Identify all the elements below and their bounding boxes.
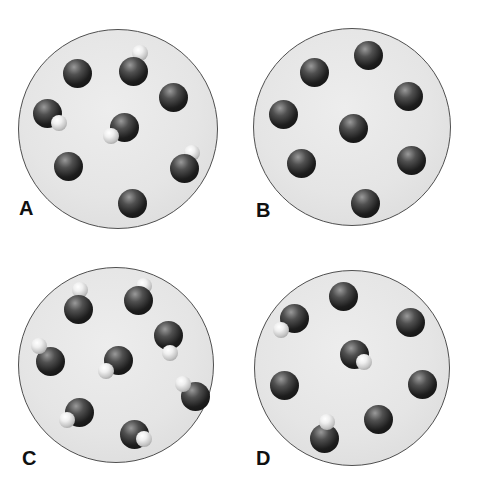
dark-atom-sphere [300,58,329,87]
panel-b: B [237,0,475,247]
dark-atom-sphere [170,154,199,183]
white-atom-sphere [31,338,47,354]
dark-atom-sphere [287,149,316,178]
panel-label-d: D [256,448,270,468]
panel-d: D [237,247,475,494]
white-atom-sphere [59,412,75,428]
panel-a: A [0,0,238,247]
white-atom-sphere [51,115,67,131]
dark-atom-sphere [54,152,83,181]
panel-c: C [0,247,238,494]
white-atom-sphere [136,431,152,447]
dark-atom-sphere [354,41,383,70]
dark-atom-sphere [269,100,298,129]
dark-atom-sphere [63,59,92,88]
dark-atom-sphere [124,286,153,315]
dark-atom-sphere [396,308,425,337]
white-atom-sphere [319,414,335,430]
panel-label-c: C [22,448,36,468]
dark-atom-sphere [329,282,358,311]
panel-label-a: A [19,198,33,218]
particulate-diagram-figure: A B C D [0,0,477,494]
dark-atom-sphere [64,295,93,324]
white-atom-sphere [162,345,178,361]
white-atom-sphere [103,128,119,144]
dark-atom-sphere [159,83,188,112]
dark-atom-sphere [351,189,380,218]
dark-atom-sphere [397,146,426,175]
dark-atom-sphere [119,57,148,86]
dark-atom-sphere [118,189,147,218]
dark-atom-sphere [408,370,437,399]
panel-label-b: B [256,200,270,220]
dark-atom-sphere [270,371,299,400]
white-atom-sphere [175,376,191,392]
white-atom-sphere [356,354,372,370]
dark-atom-sphere [394,82,423,111]
white-atom-sphere [98,363,114,379]
dark-atom-sphere [364,405,393,434]
white-atom-sphere [273,322,289,338]
dark-atom-sphere [339,114,368,143]
